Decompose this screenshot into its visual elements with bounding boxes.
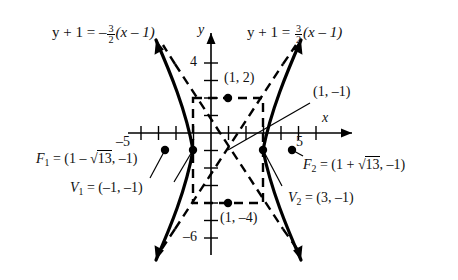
focus1-equals: = (1 – <box>49 151 90 166</box>
asymptote-positive-fraction: 32 <box>295 24 302 45</box>
asymptote-negative-fraction: 32 <box>107 24 114 45</box>
asymptote-negative-lhs: y + 1 = – <box>52 24 106 40</box>
focus2-equals: = (1 + <box>316 157 357 172</box>
hyperbola-right-branch <box>263 39 304 261</box>
vertex1-label: V1 = (–1, –1) <box>70 180 143 197</box>
focus2-radical: √13 <box>358 156 380 173</box>
asymptote-positive-lhs: y + 1 = <box>247 24 294 40</box>
focus1-radical: √13 <box>90 150 112 167</box>
asymptote-positive-equation: y + 1 = 32(x – 1) <box>247 24 342 46</box>
point-focus2 <box>288 146 296 154</box>
focus1-name: F <box>36 151 45 166</box>
focus2-label: F2 = (1 + √13, –1) <box>303 156 405 174</box>
point-vertex1 <box>189 146 197 154</box>
vertex2-label: V2 = (3, –1) <box>288 190 354 207</box>
vertex2-equals: = (3, –1) <box>301 190 353 205</box>
leader-line-focus1 <box>150 150 165 178</box>
point-focus1 <box>161 146 169 154</box>
x-tick-label-5: 5 <box>296 134 303 150</box>
focus1-label: F1 = (1 – √13, –1) <box>36 150 137 168</box>
point-box-top <box>224 94 232 102</box>
point-box-bottom <box>224 199 232 207</box>
point-vertex2 <box>259 146 267 154</box>
hyperbola-left-branch <box>153 39 193 261</box>
vertex1-name: V <box>70 180 79 195</box>
y-axis-label: y <box>198 22 204 38</box>
y-axis <box>204 33 218 255</box>
asymptote-negative-equation: y + 1 = –32(x – 1) <box>52 24 155 46</box>
x-axis-label: x <box>322 110 328 126</box>
focus2-name: F <box>303 157 312 172</box>
x-tick-label-minus5: –5 <box>116 134 130 150</box>
point-label-box-top: (1, 2) <box>224 70 254 86</box>
asymptote-positive-rhs: (x – 1) <box>303 24 342 40</box>
vertex1-equals: = (–1, –1) <box>83 180 142 195</box>
y-tick-label-minus6: –6 <box>183 229 197 245</box>
hyperbola-figure: y + 1 = –32(x – 1) y + 1 = 32(x – 1) y x… <box>0 0 458 280</box>
y-tick-label-4: 4 <box>190 54 197 70</box>
asymptote-negative-rhs: (x – 1) <box>116 24 155 40</box>
point-label-center: (1, –1) <box>313 84 350 100</box>
focus2-tail: , –1) <box>380 157 406 172</box>
focus1-tail: , –1) <box>112 151 138 166</box>
point-label-box-bottom: (1, –4) <box>220 210 257 226</box>
vertex2-name: V <box>288 190 297 205</box>
